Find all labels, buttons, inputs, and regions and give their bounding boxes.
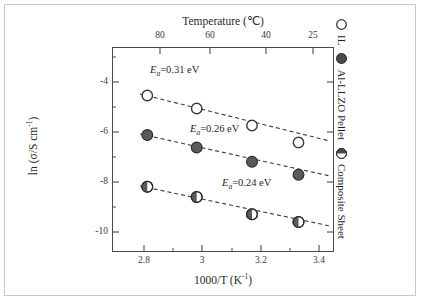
y-tick-label-minus10: -10 <box>82 226 108 236</box>
data-point-pellet-2 <box>191 142 202 153</box>
legend-entry-il[interactable]: IL <box>336 18 349 45</box>
annotation-ea-il: Ea=0.31 eV <box>150 64 199 78</box>
legend-entry-al-llzo-pellet[interactable]: Al-LLZO Pellet <box>336 52 349 140</box>
annotation-ea-composite-number: 0.24 <box>238 177 256 188</box>
data-point-pellet-3 <box>247 156 258 167</box>
open-circle-icon <box>336 18 349 31</box>
y-axis-title-main: ln (σ/S cm <box>27 127 39 175</box>
y-tick-label-minus8: -8 <box>86 176 108 186</box>
data-point-pellet-4 <box>293 169 304 180</box>
bottom-axis-title-main: 1000/T (K <box>194 274 242 286</box>
y-axis-title-sup: -1 <box>25 121 34 127</box>
y-tick-label-minus6: -6 <box>86 126 108 136</box>
legend-inner: IL Al-LLZO Pellet Composite Sheet <box>331 18 353 268</box>
data-point-composite-4 <box>293 217 304 228</box>
legend: IL Al-LLZO Pellet Composite Sheet <box>312 20 342 270</box>
data-point-composite-2 <box>191 192 202 203</box>
annotation-ea-pellet-unit: eV <box>227 123 239 134</box>
legend-label-composite-sheet: Composite Sheet <box>336 164 348 239</box>
data-point-il-4 <box>293 137 303 147</box>
y-axis-title: ln (σ/S cm-1) <box>25 86 39 206</box>
legend-entry-composite-sheet[interactable]: Composite Sheet <box>336 147 349 239</box>
half-filled-circle-icon <box>336 147 349 160</box>
data-point-il-2 <box>192 103 202 113</box>
annotation-ea-il-unit: eV <box>187 64 199 75</box>
y-axis-title-end: ) <box>27 117 39 121</box>
x-tick-label-3: 3 <box>190 255 214 265</box>
data-point-composite-1 <box>142 181 153 192</box>
legend-label-al-llzo-pellet: Al-LLZO Pellet <box>336 69 348 140</box>
legend-label-il: IL <box>336 35 348 45</box>
data-point-pellet-1 <box>142 130 153 141</box>
bottom-axis-title-end: ) <box>248 274 252 286</box>
y-tick-label-minus4: -4 <box>86 76 108 86</box>
data-point-il-1 <box>142 90 152 100</box>
annotation-ea-composite-unit: eV <box>259 177 271 188</box>
top-axis-ticks <box>160 47 313 54</box>
data-point-il-3 <box>247 120 257 130</box>
x-tick-label-2-8: 2.8 <box>132 255 156 265</box>
series-al-llzo-pellet <box>140 130 330 181</box>
series-il <box>140 90 330 147</box>
bottom-axis-title: 1000/T (K-1) <box>112 272 334 286</box>
annotation-ea-composite: Ea=0.24 eV <box>222 177 271 191</box>
x-tick-label-3-2: 3.2 <box>249 255 273 265</box>
filled-circle-icon <box>336 52 349 65</box>
bottom-axis-ticks-minor <box>173 248 290 252</box>
annotation-ea-pellet: Ea=0.26 eV <box>190 123 239 137</box>
annotation-ea-il-number: 0.31 <box>166 64 184 75</box>
data-point-composite-3 <box>247 209 258 220</box>
arrhenius-figure: Temperature (℃) 80 60 40 25 <box>0 0 422 302</box>
annotation-ea-pellet-number: 0.26 <box>206 123 224 134</box>
